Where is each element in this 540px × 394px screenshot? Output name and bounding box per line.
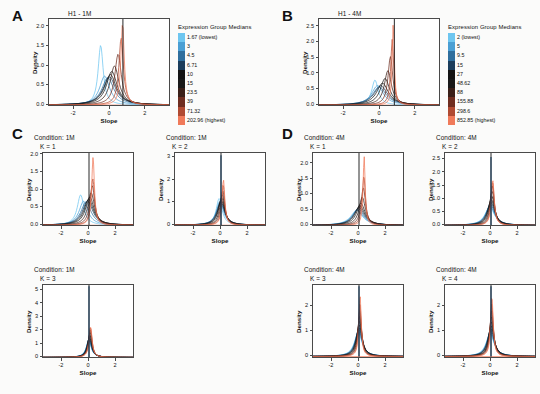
panel-a-plot: H1 - 1M 0.00.51.01.52.0-202SlopeDensity xyxy=(0,0,270,126)
panel-a-yaxis-title: Density xyxy=(31,52,38,74)
panel-d-k2-xtick-label-0: -2 xyxy=(455,230,471,236)
legend-b-swatch-1 xyxy=(448,42,455,52)
legend-a-swatch-9 xyxy=(178,116,185,126)
panel-d-k3-xtick-label-1: 0 xyxy=(350,362,366,368)
panel-c-k3-ytick-label-1: 1 xyxy=(8,340,38,346)
panel-d-k4-xtick-mark-0 xyxy=(463,358,464,361)
legend-a-swatch-7 xyxy=(178,97,185,107)
panel-c-k2-frame xyxy=(174,152,266,226)
panel-c-k1-ytick-mark-2 xyxy=(40,189,43,190)
legend-a-entry-7: 39 xyxy=(187,99,193,104)
panel-c-k1-ytick-label-2: 1.0 xyxy=(8,186,38,192)
panel-c-k3-xtick-mark-1 xyxy=(88,358,89,361)
panel-c-k3-ytick-label-3: 3 xyxy=(8,313,38,319)
panel-b-xtick-mark-2 xyxy=(414,106,415,109)
panel-b-ytick-mark-5 xyxy=(316,25,319,26)
panel-c-k2-ytick-label-2: 2 xyxy=(140,176,170,182)
panel-c-k2-xtick-mark-0 xyxy=(193,226,194,229)
panel-d-k2-ytick-mark-2 xyxy=(442,198,445,199)
panel-c-k1-xaxis-title: Slope xyxy=(42,237,134,244)
panel-d-k2-xtick-label-2: 2 xyxy=(509,230,525,236)
panel-b-ytick-label-1: 0.5 xyxy=(270,85,314,91)
panel-c-k2-ytick-mark-1 xyxy=(172,201,175,202)
panel-c-k3-ytick-mark-0 xyxy=(40,356,43,357)
panel-a-xtick-mark-2 xyxy=(144,106,145,109)
panel-c-k3-xtick-label-0: -2 xyxy=(53,362,69,368)
panel-d-k4-ytick-label-2: 2 xyxy=(410,302,440,308)
legend-a-entry-6: 23.5 xyxy=(187,90,197,95)
legend-a-entry-4: 10 xyxy=(187,72,193,77)
panel-c-k3-xaxis-title: Slope xyxy=(42,369,134,376)
panel-a-series-8 xyxy=(49,38,170,105)
panel-c-k1-ytick-mark-1 xyxy=(40,206,43,207)
panel-b-plot: H1 - 4M 0.00.51.01.52.02.5-202SlopeDensi… xyxy=(270,0,540,126)
panel-a-ytick-mark-1 xyxy=(46,84,49,85)
panel-a-ytick-mark-0 xyxy=(46,104,49,105)
panel-c-k1-ytick-label-0: 0.0 xyxy=(8,221,38,227)
panel-d-k3-ytick-mark-1 xyxy=(310,330,313,331)
panel-c-k2-ytick-label-1: 1 xyxy=(140,198,170,204)
panel-d-k3-xtick-label-2: 2 xyxy=(377,362,393,368)
panel-d-k4-yaxis-title: Density xyxy=(427,311,434,333)
panel-d-k1-series-0 xyxy=(313,211,404,225)
legend-a-entry-9: 202.96 (highest) xyxy=(187,118,225,123)
panel-b-series-9 xyxy=(319,25,440,105)
panel-c-k1-frame xyxy=(42,152,134,226)
panel-d-k1-xtick-mark-1 xyxy=(358,226,359,229)
panel-d-k4-condition: Condition: 4M xyxy=(436,266,477,275)
panel-d-k2-ytick-mark-5 xyxy=(442,158,445,159)
panel-d-k1-ytick-label-0: 0.0 xyxy=(278,221,308,227)
panel-d-k4-ytick-mark-1 xyxy=(442,330,445,331)
panel-d-k1-ytick-label-2: 1.0 xyxy=(278,190,308,196)
legend-a-swatch-8 xyxy=(178,107,185,117)
legend-a-entry-1: 3 xyxy=(187,44,190,49)
panel-b-ytick-mark-2 xyxy=(316,72,319,73)
panel-d-k3-xtick-mark-1 xyxy=(358,358,359,361)
panel-a-xtick-label-0: -2 xyxy=(65,110,81,116)
legend-a-swatch-4 xyxy=(178,70,185,80)
panel-c-k1-ytick-label-4: 2.0 xyxy=(8,151,38,157)
panel-c-k2-xtick-mark-2 xyxy=(247,226,248,229)
panel-d-k2-ytick-label-2: 1.0 xyxy=(410,195,440,201)
legend-b-swatch-6 xyxy=(448,88,455,98)
panel-c-k2-ytick-mark-2 xyxy=(172,179,175,180)
panel-a-ytick-label-0: 0.0 xyxy=(0,101,44,107)
panel-c-k3-ytick-label-0: 0 xyxy=(8,353,38,359)
panel-c-k1-xtick-mark-2 xyxy=(115,226,116,229)
panel-c-k3-plot: Condition: 1M K = 3 012345-202SlopeDensi… xyxy=(8,262,140,390)
panel-c-k2-ytick-mark-3 xyxy=(172,156,175,157)
panel-a-ytick-label-4: 2.0 xyxy=(0,23,44,29)
panel-c-k3-ytick-mark-1 xyxy=(40,343,43,344)
panel-c-k2-ytick-label-3: 3 xyxy=(140,153,170,159)
legend-b-entry-0: 2 (lowest) xyxy=(457,35,480,40)
panel-d-k1-xtick-mark-0 xyxy=(331,226,332,229)
legend-b-swatch-8 xyxy=(448,107,455,117)
panel-d-k2-frame xyxy=(444,152,536,226)
panel-c-k3-ytick-mark-4 xyxy=(40,302,43,303)
figure-canvas: A B C D H1 - 1M 0.00.51.01.52.0-202Slope… xyxy=(0,0,540,394)
panel-d-k2-xtick-mark-1 xyxy=(490,226,491,229)
legend-a-swatch-2 xyxy=(178,51,185,61)
panel-d-k3-xtick-mark-0 xyxy=(331,358,332,361)
panel-d-k2-ytick-mark-1 xyxy=(442,211,445,212)
panel-d-k2-k: K = 2 xyxy=(442,143,458,152)
panel-d-k4-ytick-label-1: 1 xyxy=(410,327,440,333)
panel-b-series-6 xyxy=(319,71,440,105)
legend-b-entry-3: 15 xyxy=(457,63,463,68)
panel-d-k1-xtick-label-1: 0 xyxy=(350,230,366,236)
legend-b-swatch-9 xyxy=(448,116,455,126)
legend-b-entry-6: 88 xyxy=(457,90,463,95)
panel-c-k1-series-2 xyxy=(43,202,134,225)
panel-c-k1-ytick-label-1: 0.5 xyxy=(8,203,38,209)
panel-d-k1-condition: Condition: 4M xyxy=(304,134,345,143)
panel-a-xtick-mark-0 xyxy=(73,106,74,109)
panel-d-k2-ytick-mark-0 xyxy=(442,224,445,225)
panel-c-k1-xtick-label-2: 2 xyxy=(107,230,123,236)
panel-c-k1-xtick-mark-1 xyxy=(88,226,89,229)
panel-c-k3-k: K = 3 xyxy=(40,275,56,284)
panel-b-ytick-mark-3 xyxy=(316,57,319,58)
panel-a-ytick-mark-2 xyxy=(46,65,49,66)
panel-d-k1-ytick-mark-1 xyxy=(310,209,313,210)
panel-c-k3-xtick-mark-0 xyxy=(61,358,62,361)
panel-d-k1-plot: Condition: 4M K = 1 0.00.51.01.52.0-202S… xyxy=(278,130,410,258)
